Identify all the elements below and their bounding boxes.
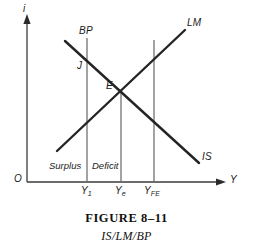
tick-label-yfe: YFE xyxy=(144,186,160,196)
point-label-e: E xyxy=(106,81,113,91)
tick-main-y1: Y xyxy=(81,185,88,196)
figure-caption-title: FIGURE 8–11 xyxy=(0,211,253,226)
lm-curve-label: LM xyxy=(187,18,202,28)
origin-label: O xyxy=(14,174,22,184)
x-axis xyxy=(27,178,226,185)
tick-sub-ye: e xyxy=(122,190,126,197)
tick-sub-y1: 1 xyxy=(88,190,92,197)
y-axis-label: i xyxy=(23,4,25,14)
tick-main-ye: Y xyxy=(115,185,122,196)
point-label-j: J xyxy=(77,61,82,71)
figure-container: i Y O BP LM IS J E Surplus Deficit Y1 Ye… xyxy=(0,0,253,252)
tick-main-yfe: Y xyxy=(144,185,151,196)
is-curve-label: IS xyxy=(202,152,212,162)
tick-label-ye: Ye xyxy=(115,186,126,196)
tick-sub-yfe: FE xyxy=(151,190,160,197)
tick-label-y1: Y1 xyxy=(81,186,92,196)
bp-curve-label: BP xyxy=(79,26,93,36)
x-axis-label: Y xyxy=(230,175,237,185)
figure-caption-subtitle: IS/LM/BP xyxy=(0,229,253,244)
is-curve xyxy=(65,41,199,163)
region-label-surplus: Surplus xyxy=(49,161,81,171)
y-axis xyxy=(23,14,30,182)
region-label-deficit: Deficit xyxy=(92,161,118,171)
